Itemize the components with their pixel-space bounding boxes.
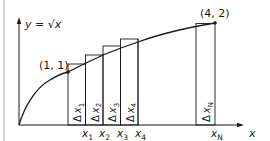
- tick-xn: xN: [210, 127, 223, 141]
- function-label: y = √x: [24, 18, 62, 31]
- x-axis-label: x: [248, 127, 256, 140]
- riemann-sum-diagram: y = √x (1, 1) (4, 2) x Δx1 Δx2 Δx3 Δx4 Δ…: [0, 0, 270, 141]
- tick-x3: x3: [116, 127, 128, 141]
- delta-x3-label: Δx3: [107, 103, 121, 122]
- point-end: [213, 21, 217, 25]
- tick-x4: x4: [134, 127, 146, 141]
- point-start-label: (1, 1): [39, 59, 69, 72]
- delta-xn-label: ΔxN: [201, 102, 215, 122]
- delta-x1-label: Δx1: [72, 103, 86, 122]
- delta-labels: Δx1 Δx2 Δx3 Δx4 ΔxN: [72, 102, 215, 122]
- delta-x4-label: Δx4: [125, 102, 139, 122]
- x-axis-arrow-icon: [237, 123, 244, 127]
- y-axis-arrow-icon: [17, 17, 21, 24]
- tick-labels: x1 x2 x3 x4 xN: [81, 127, 223, 141]
- delta-x2-label: Δx2: [90, 103, 104, 122]
- point-end-label: (4, 2): [200, 7, 230, 20]
- tick-x2: x2: [98, 127, 110, 141]
- rectangle-2: [86, 55, 104, 125]
- tick-x1: x1: [81, 127, 93, 141]
